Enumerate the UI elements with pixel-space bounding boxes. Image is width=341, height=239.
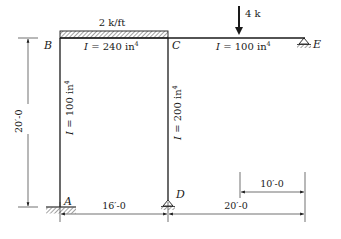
node-label-B: B bbox=[43, 39, 52, 52]
inertia-label-AB: I = 100 in4 bbox=[63, 80, 75, 136]
distributed-load: 2 k/ft bbox=[60, 17, 168, 38]
inertia-label-CE: I = 100 in4 bbox=[215, 40, 271, 52]
dimension-span-AD-label: 16′-0 bbox=[102, 200, 126, 211]
distributed-load-label: 2 k/ft bbox=[99, 17, 126, 28]
structural-frame-diagram: 2 k/ft 4 k B C A D E I = 240 in4 I = 100… bbox=[0, 0, 341, 239]
node-label-E: E bbox=[312, 38, 321, 51]
dimension-load-to-E: 10′-0 bbox=[240, 172, 304, 198]
node-label-D: D bbox=[175, 188, 185, 201]
inertia-label-CD: I = 200 in4 bbox=[171, 85, 183, 141]
point-load: 4 k bbox=[235, 6, 262, 35]
dimension-height-label: 20′-0 bbox=[13, 110, 24, 134]
dimension-height: 20′-0 bbox=[13, 38, 38, 207]
point-load-label: 4 k bbox=[245, 8, 262, 19]
dimension-span-DE-label: 20′-0 bbox=[224, 200, 248, 211]
node-label-A: A bbox=[63, 195, 72, 208]
node-label-C: C bbox=[172, 39, 181, 52]
dimension-load-to-E-label: 10′-0 bbox=[260, 178, 284, 189]
inertia-label-BC: I = 240 in4 bbox=[83, 40, 139, 52]
dimension-span-AD: 16′-0 bbox=[60, 200, 168, 222]
dimension-span-DE: 20′-0 bbox=[169, 172, 305, 222]
pin-support-E bbox=[297, 38, 311, 48]
